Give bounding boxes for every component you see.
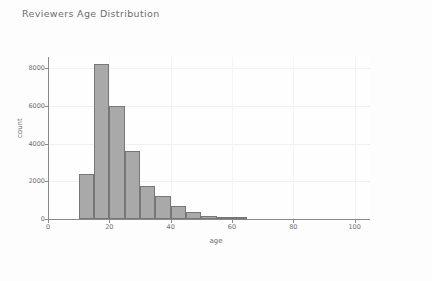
y-tick-label: 6000 (28, 102, 45, 110)
x-tick-mark (171, 220, 172, 223)
bar (140, 186, 155, 219)
y-tick-label: 2000 (28, 177, 45, 185)
y-tick-label: 8000 (28, 64, 45, 72)
x-tick-label: 20 (105, 223, 113, 231)
y-axis-label: count (16, 118, 24, 138)
chart-figure: Reviewers Age Distribution 0200040006000… (0, 0, 432, 281)
plot-area (48, 57, 370, 219)
x-tick-mark (232, 220, 233, 223)
y-tick-mark (45, 68, 48, 69)
gridline-x (232, 57, 233, 219)
gridline-x (171, 57, 172, 219)
gridline-x (355, 57, 356, 219)
x-tick-label: 60 (228, 223, 236, 231)
y-tick-label: 4000 (28, 140, 45, 148)
bar (109, 106, 124, 219)
x-axis-line (48, 219, 370, 220)
y-axis-line (48, 57, 49, 220)
bar (155, 196, 170, 219)
x-tick-mark (109, 220, 110, 223)
x-tick-label: 0 (46, 223, 50, 231)
y-tick-mark (45, 181, 48, 182)
bar (94, 64, 109, 219)
x-tick-label: 80 (289, 223, 297, 231)
x-tick-mark (355, 220, 356, 223)
x-tick-label: 100 (348, 223, 360, 231)
bar (79, 174, 94, 219)
x-axis-label: age (0, 237, 432, 245)
x-tick-mark (293, 220, 294, 223)
x-tick-label: 40 (167, 223, 175, 231)
bar (125, 151, 140, 219)
bar (186, 212, 201, 219)
y-tick-mark (45, 106, 48, 107)
bar (171, 206, 186, 219)
y-tick-mark (45, 144, 48, 145)
gridline-x (293, 57, 294, 219)
x-tick-mark (48, 220, 49, 223)
